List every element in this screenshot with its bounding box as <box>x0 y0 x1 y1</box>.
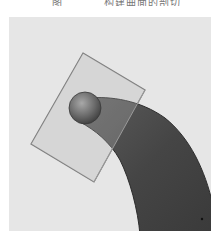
section-diagram <box>0 0 224 243</box>
sphere-cap <box>69 92 101 124</box>
speck-mark <box>201 218 203 220</box>
